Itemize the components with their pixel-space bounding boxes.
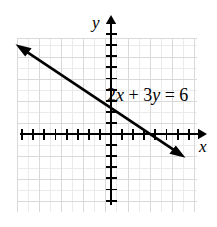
equation-equals-sign: = [160,85,179,105]
equation-constant: 6 [179,85,188,105]
coordinate-plane-svg [0,0,217,227]
equation-coefficient-x: 2 [107,85,116,105]
x-axis [20,129,207,139]
equation-variable-y: y [152,85,160,105]
y-axis-label: y [92,14,100,31]
equation-coefficient-y: 3 [143,85,152,105]
equation-label: 2x + 3y = 6 [107,86,188,104]
linear-equation-graph-figure: y x 2x + 3y = 6 [0,0,217,227]
equation-plus-sign: + [124,85,143,105]
equation-variable-x: x [116,85,124,105]
x-axis-label: x [199,138,207,155]
